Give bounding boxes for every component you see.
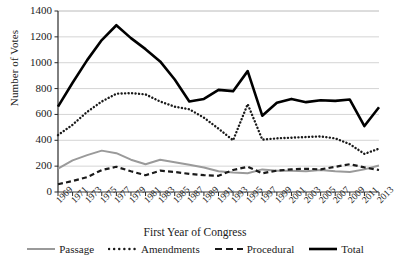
legend-label: Total xyxy=(341,243,363,255)
y-tick-label: 1000 xyxy=(8,57,52,68)
legend-swatch-total xyxy=(308,244,338,254)
y-tick-label: 1400 xyxy=(8,5,52,16)
y-tick-label: 200 xyxy=(8,160,52,171)
legend-label: Amendments xyxy=(141,243,200,255)
y-tick-label: 600 xyxy=(8,108,52,119)
x-axis-title: First Year of Congress xyxy=(0,226,390,238)
y-tick-label: 400 xyxy=(8,134,52,145)
legend-item-total[interactable]: Total xyxy=(308,243,363,255)
series-line-total xyxy=(58,25,379,126)
legend-label: Passage xyxy=(59,243,94,255)
y-tick-label: 0 xyxy=(8,186,52,197)
legend-item-passage[interactable]: Passage xyxy=(26,243,94,255)
legend-label: Procedural xyxy=(247,243,295,255)
legend-swatch-procedural xyxy=(214,244,244,254)
chart-legend: PassageAmendmentsProceduralTotal xyxy=(0,243,390,255)
y-tick-label: 1200 xyxy=(8,31,52,42)
series-line-procedural xyxy=(58,164,379,184)
series-line-amendments xyxy=(58,93,379,154)
legend-item-procedural[interactable]: Procedural xyxy=(214,243,295,255)
legend-swatch-amendments xyxy=(108,244,138,254)
legend-swatch-passage xyxy=(26,244,56,254)
y-tick-label: 800 xyxy=(8,83,52,94)
legend-item-amendments[interactable]: Amendments xyxy=(108,243,200,255)
